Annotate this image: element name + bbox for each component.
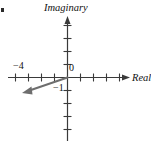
real-axis-arrowhead — [122, 75, 130, 81]
argand-diagram-figure: Imaginary Real 0 −4 −1 — [0, 0, 151, 143]
imaginary-axis-label: Imaginary — [44, 3, 88, 14]
imaginary-axis-arrowhead — [65, 16, 71, 24]
real-tick-label-neg-4: −4 — [13, 61, 24, 71]
origin-label: 0 — [69, 63, 74, 73]
real-axis-group — [8, 74, 130, 82]
complex-plane-plot — [0, 0, 151, 143]
imaginary-tick-label-neg-1: −1 — [53, 83, 64, 93]
vector-arrowhead — [22, 87, 33, 95]
real-axis-label: Real — [132, 73, 151, 84]
